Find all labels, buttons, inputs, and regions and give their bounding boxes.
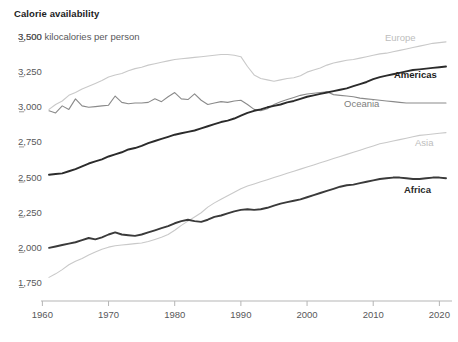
y-axis-tick-label: 2,250 <box>18 207 42 218</box>
x-axis-tick-label: 1990 <box>221 309 261 320</box>
series-line-asia <box>49 133 446 278</box>
x-axis-tick-label: 2020 <box>419 309 458 320</box>
y-axis-tick-label: 2,000 <box>18 242 42 253</box>
x-axis-tick-label: 2000 <box>287 309 327 320</box>
x-axis-tick-label: 2010 <box>353 309 393 320</box>
x-axis-tick-label: 1970 <box>89 309 129 320</box>
calorie-availability-chart: Calorie availability 3,500 kilocalories … <box>0 0 458 342</box>
plot-area <box>0 0 458 342</box>
series-label-africa: Africa <box>404 184 431 195</box>
y-axis-tick-label: 3,250 <box>18 66 42 77</box>
y-axis-tick-label: 3,000 <box>18 101 42 112</box>
series-line-americas <box>49 67 446 175</box>
y-axis-tick-label: 3,500 <box>18 31 42 42</box>
series-line-africa <box>49 178 446 248</box>
y-axis-tick-label: 1,750 <box>18 277 42 288</box>
series-line-oceania <box>49 92 446 113</box>
x-axis-tick-label: 1960 <box>22 309 62 320</box>
series-label-oceania: Oceania <box>344 98 379 109</box>
y-axis-tick-label: 2,750 <box>18 136 42 147</box>
x-axis-tick-label: 1980 <box>155 309 195 320</box>
y-axis-tick-label: 2,500 <box>18 172 42 183</box>
series-label-asia: Asia <box>415 137 433 148</box>
series-label-europe: Europe <box>385 32 416 43</box>
series-label-americas: Americas <box>394 69 437 80</box>
